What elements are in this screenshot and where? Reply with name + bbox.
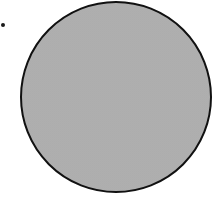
diagram-canvas bbox=[0, 0, 220, 201]
marker-dot bbox=[1, 23, 5, 27]
filled-circle bbox=[20, 1, 212, 193]
